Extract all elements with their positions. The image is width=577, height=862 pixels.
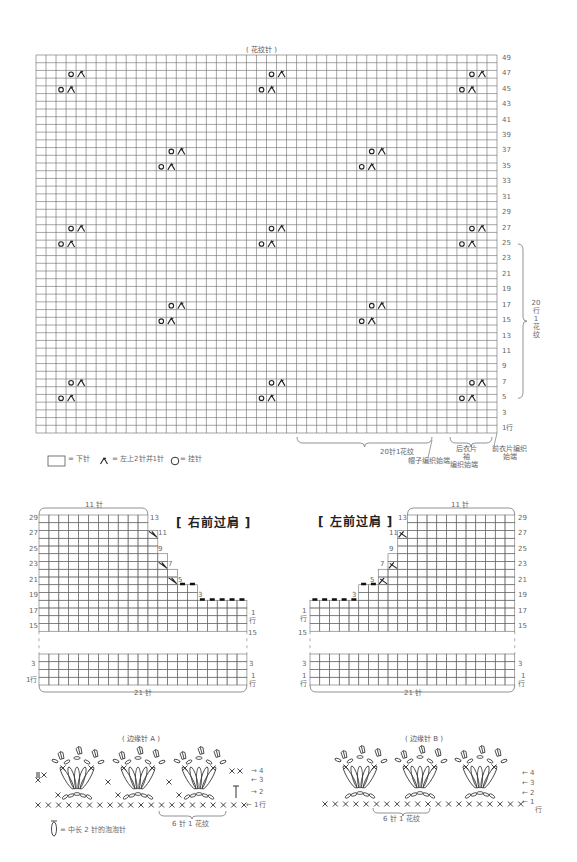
grid-cell bbox=[49, 654, 59, 662]
grid-cell bbox=[217, 670, 227, 678]
single-crochet-icon bbox=[66, 803, 71, 808]
grid-cell bbox=[388, 616, 398, 624]
grid-cell bbox=[417, 616, 427, 624]
grid-cell bbox=[98, 546, 108, 554]
grid-cell bbox=[178, 662, 188, 670]
grid-cell bbox=[49, 562, 59, 570]
grid-cell bbox=[108, 608, 118, 616]
grid-cell bbox=[398, 546, 408, 554]
main-row-label: 25 bbox=[502, 240, 511, 247]
grid-cell bbox=[188, 654, 198, 662]
grid-cell bbox=[437, 662, 447, 670]
double-crochet-icon bbox=[477, 766, 482, 788]
repeat-rows-char: 花 bbox=[531, 323, 541, 331]
grid-cell bbox=[108, 624, 118, 632]
grid-cell bbox=[447, 531, 457, 539]
grid-cell bbox=[427, 523, 437, 531]
k2tog-icon bbox=[478, 71, 485, 77]
chain-icon bbox=[208, 794, 215, 800]
k2tog-icon bbox=[278, 71, 285, 77]
grid-cell bbox=[398, 662, 408, 670]
grid-cell bbox=[118, 616, 128, 624]
grid-cell bbox=[39, 546, 49, 554]
grid-cell bbox=[476, 677, 486, 685]
grid-cell bbox=[476, 531, 486, 539]
grid-cell bbox=[89, 616, 99, 624]
grid-cell bbox=[486, 662, 496, 670]
yarn-over-icon bbox=[69, 381, 74, 386]
ls-end-label: 1 bbox=[302, 608, 306, 615]
grid-cell bbox=[388, 624, 398, 632]
grid-cell bbox=[466, 616, 476, 624]
single-crochet-icon bbox=[467, 802, 472, 807]
grid-cell bbox=[456, 531, 466, 539]
grid-cell bbox=[369, 585, 379, 593]
grid-cell bbox=[98, 554, 108, 562]
single-crochet-icon bbox=[343, 802, 348, 807]
grid-cell bbox=[59, 515, 69, 523]
grid-cell bbox=[437, 677, 447, 685]
grid-cell bbox=[168, 593, 178, 601]
grid-cell bbox=[359, 677, 369, 685]
grid-cell bbox=[417, 523, 427, 531]
grid-cell bbox=[207, 624, 217, 632]
grid-cell bbox=[178, 624, 188, 632]
grid-cell bbox=[447, 608, 457, 616]
knit-stitch-legend-icon bbox=[48, 456, 65, 466]
left-shoulder-bottom-label: 21 针 bbox=[404, 690, 422, 697]
chain-icon bbox=[123, 794, 130, 800]
single-crochet-icon bbox=[498, 802, 503, 807]
grid-cell bbox=[98, 677, 108, 685]
ls-right-row-label: 1 bbox=[521, 673, 525, 680]
grid-cell bbox=[408, 531, 418, 539]
grid-cell bbox=[447, 593, 457, 601]
grid-cell bbox=[447, 562, 457, 570]
grid-cell bbox=[427, 562, 437, 570]
grid-cell bbox=[89, 554, 99, 562]
grid-cell bbox=[118, 608, 128, 616]
ls-end-label: 行 bbox=[300, 616, 307, 623]
main-row-label: 7 bbox=[502, 379, 506, 386]
grid-cell bbox=[148, 624, 158, 632]
grid-cell bbox=[138, 654, 148, 662]
grid-cell bbox=[417, 585, 427, 593]
grid-cell bbox=[108, 523, 118, 531]
grid-cell bbox=[427, 600, 437, 608]
grid-cell bbox=[168, 677, 178, 685]
grid-cell bbox=[417, 546, 427, 554]
main-row-label: 1行 bbox=[502, 425, 513, 432]
bobble-icon bbox=[214, 749, 221, 758]
grid-cell bbox=[369, 616, 379, 624]
grid-cell bbox=[79, 538, 89, 546]
grid-cell bbox=[227, 624, 237, 632]
single-crochet-icon bbox=[56, 793, 61, 798]
grid-cell bbox=[330, 654, 340, 662]
grid-cell bbox=[158, 616, 168, 624]
grid-cell bbox=[505, 569, 515, 577]
grid-cell bbox=[486, 562, 496, 570]
chain-icon bbox=[455, 758, 462, 763]
grid-cell bbox=[408, 538, 418, 546]
grid-cell bbox=[427, 554, 437, 562]
grid-cell bbox=[437, 670, 447, 678]
bobble-icon bbox=[461, 750, 468, 759]
grid-cell bbox=[486, 554, 496, 562]
grid-cell bbox=[39, 523, 49, 531]
grid-cell bbox=[118, 662, 128, 670]
grid-cell bbox=[466, 531, 476, 539]
front-label-line1: 前衣片编织 bbox=[492, 446, 527, 453]
grid-cell bbox=[59, 677, 69, 685]
grid-cell bbox=[148, 662, 158, 670]
grid-cell bbox=[495, 600, 505, 608]
grid-cell bbox=[59, 538, 69, 546]
grid-cell bbox=[178, 608, 188, 616]
grid-cell bbox=[476, 515, 486, 523]
double-crochet-icon bbox=[66, 766, 77, 789]
k2tog-icon bbox=[468, 87, 475, 93]
grid-cell bbox=[349, 616, 359, 624]
grid-cell bbox=[158, 654, 168, 662]
grid-cell bbox=[476, 670, 486, 678]
grid-cell bbox=[79, 515, 89, 523]
grid-cell bbox=[505, 677, 515, 685]
back-sleeve-start-label: 后衣片 袖 编织始端 bbox=[454, 446, 478, 469]
